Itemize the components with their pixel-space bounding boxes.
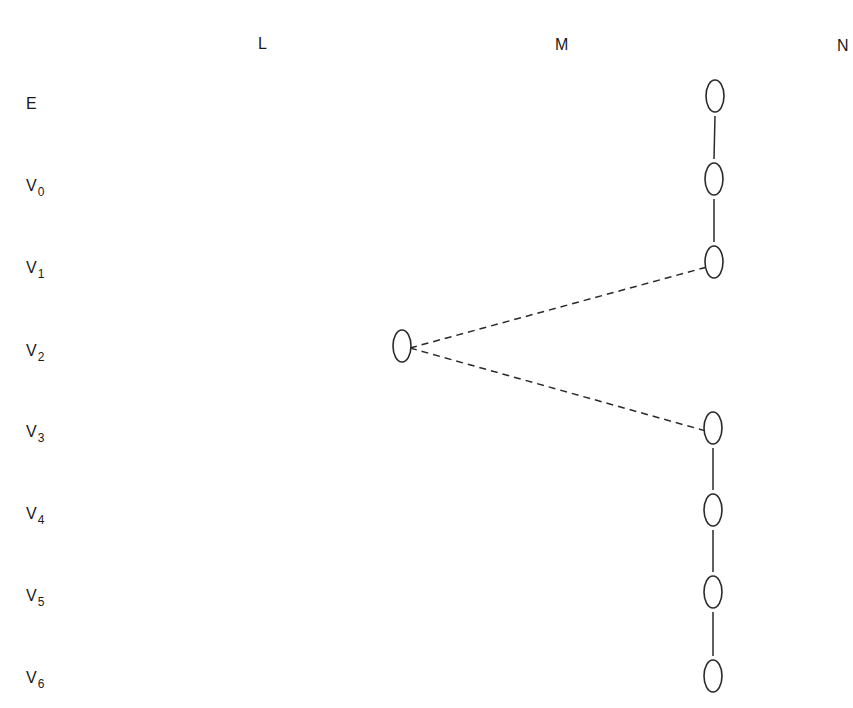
- dashed-edge-v2-m-to-v1-n: [410, 267, 707, 348]
- node-v0-n: [705, 163, 723, 195]
- edges: [410, 116, 715, 656]
- node-v5-n: [704, 576, 722, 608]
- node-e-n: [706, 80, 724, 112]
- node-v3-n: [704, 412, 722, 444]
- node-v4-n: [704, 494, 722, 526]
- dashed-edge-v2-m-to-v3-n: [410, 348, 706, 431]
- nodes: [393, 80, 724, 692]
- solid-edge-e-n-to-v0-n: [714, 116, 715, 159]
- node-v2-m: [393, 330, 411, 362]
- graph-diagram: [0, 0, 853, 708]
- node-v6-n: [704, 660, 722, 692]
- node-v1-n: [705, 246, 723, 278]
